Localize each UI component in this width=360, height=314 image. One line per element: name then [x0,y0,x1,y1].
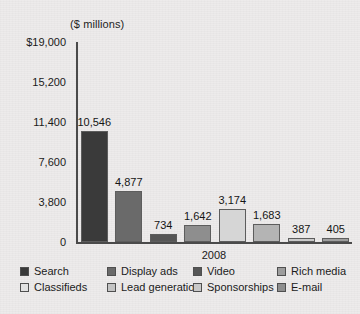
legend-swatch-icon [193,267,202,276]
bar-value-label: 1,683 [241,210,292,221]
chart-figure: ($ millions) $19,00015,20011,4007,6003,8… [0,0,360,314]
legend-swatch-icon [277,283,286,292]
chart-legend: SearchDisplay adsVideoRich media Classif… [18,266,354,298]
legend-item-label: Sponsorships [207,282,274,293]
legend-item-e-mail[interactable]: E-mail [277,282,322,293]
y-axis-tick-7600: 7,600 [0,157,66,168]
bar-value-label: 4,877 [103,177,154,188]
x-axis-label: 2008 [76,249,352,261]
y-axis-tick-11400: 11,400 [0,117,66,128]
legend-row: SearchDisplay adsVideoRich media [18,266,354,282]
chart-axis-units-title: ($ millions) [70,18,124,30]
legend-swatch-icon [277,267,286,276]
y-axis-tick-19000: $19,000 [0,37,66,48]
legend-item-rich-media[interactable]: Rich media [277,266,346,277]
y-axis-tick-3800: 3,800 [0,197,66,208]
legend-swatch-icon [193,283,202,292]
legend-item-lead-generation[interactable]: Lead generation [107,282,201,293]
bar-series: 10,5464,8777341,6423,1741,683387405 [76,42,352,242]
bar-slot: 387 [288,42,315,242]
bar-value-label: 10,546 [69,117,120,128]
bar-lead-generation [184,225,211,242]
legend-item-label: E-mail [291,282,322,293]
legend-swatch-icon [20,283,29,292]
legend-item-classifieds[interactable]: Classifieds [20,282,87,293]
legend-item-label: Display ads [121,266,178,277]
legend-item-video[interactable]: Video [193,266,235,277]
legend-item-search[interactable]: Search [20,266,69,277]
legend-item-display-ads[interactable]: Display ads [107,266,178,277]
bar-classifieds [150,234,177,242]
legend-row: ClassifiedsLead generationSponsorshipsE-… [18,282,354,298]
bar-slot: 4,877 [115,42,142,242]
y-axis-tick-15200: 15,200 [0,77,66,88]
y-axis-tick-0: 0 [0,237,66,248]
bar-value-label: 405 [310,224,360,235]
bar-value-label: 734 [138,220,189,231]
bar-value-label: 3,174 [207,195,258,206]
legend-item-label: Classifieds [34,282,87,293]
bar-value-label: 1,642 [172,211,223,222]
bar-display-ads [115,191,142,242]
legend-swatch-icon [20,267,29,276]
bar-e-mail [322,238,349,242]
legend-item-label: Rich media [291,266,346,277]
legend-swatch-icon [107,283,116,292]
bar-rich-media [288,238,315,242]
legend-item-label: Lead generation [121,282,201,293]
legend-item-sponsorships[interactable]: Sponsorships [193,282,274,293]
legend-item-label: Search [34,266,69,277]
legend-item-label: Video [207,266,235,277]
legend-swatch-icon [107,267,116,276]
bar-slot: 405 [322,42,349,242]
bar-slot: 1,683 [253,42,280,242]
x-axis-line [76,242,352,244]
bar-slot: 10,546 [81,42,108,242]
bar-slot: 1,642 [184,42,211,242]
